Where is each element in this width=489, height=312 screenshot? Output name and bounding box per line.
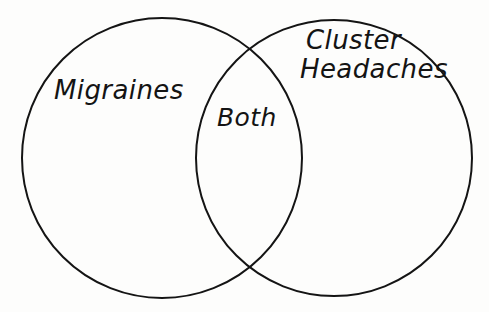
venn-label-cluster-line-1: Cluster <box>306 26 448 55</box>
venn-label-both: Both <box>217 104 277 132</box>
venn-label-cluster-headaches: Cluster Headaches <box>300 26 448 84</box>
venn-label-cluster-line-2: Headaches <box>300 55 448 84</box>
venn-label-migraines: Migraines <box>54 76 184 105</box>
venn-diagram: Migraines Both Cluster Headaches <box>0 0 489 312</box>
